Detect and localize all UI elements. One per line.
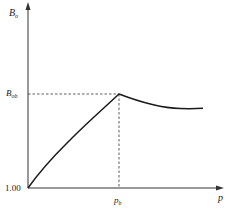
y-tick-bob-label: Bob (6, 89, 18, 99)
x-axis-label: p (218, 193, 223, 203)
x-tick-pb-label: pb (114, 196, 122, 206)
chart-canvas (0, 0, 229, 214)
y-axis-label: Bo (9, 8, 18, 19)
bo-curve (28, 94, 203, 188)
x-axis-arrow-icon (216, 186, 224, 191)
y-tick-origin-label: 1.00 (5, 184, 21, 193)
y-axis-arrow-icon (26, 2, 31, 10)
